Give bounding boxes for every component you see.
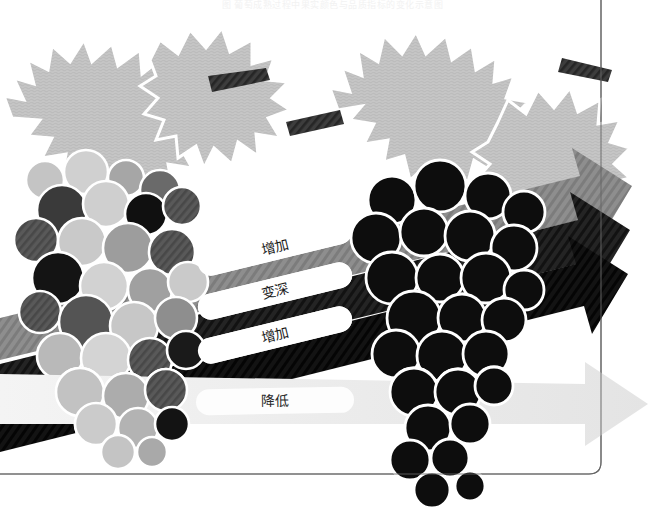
figure-canvas: 图 葡萄成熟过程中果实颜色与品质指标的变化示意图 <box>0 0 665 530</box>
left-cluster-lower-overlay <box>56 368 189 469</box>
right-cluster-lower-overlay <box>390 367 513 508</box>
grape-ripening-diagram: 增加 变深 增加 降低 <box>0 0 665 530</box>
arrow-label-3: 降低 <box>261 393 289 409</box>
